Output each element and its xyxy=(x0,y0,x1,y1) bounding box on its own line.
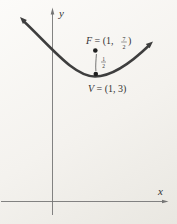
focus-label-mid: = (1, xyxy=(92,35,113,47)
vertex-label-rest: = (1, 3) xyxy=(94,83,126,95)
x-axis-label: x xyxy=(157,185,163,197)
focus-fraction-denominator: 2 xyxy=(123,44,126,50)
focus-point xyxy=(93,48,98,53)
focus-vertex-segment xyxy=(96,54,97,71)
y-axis-arrowhead xyxy=(51,8,55,15)
x-axis-arrowhead xyxy=(162,200,169,204)
parabola-figure-svg: y x 1 2 F = (1, 7 2 ) V = (1, 3) xyxy=(0,0,177,224)
focus-label-close-paren: ) xyxy=(128,35,131,47)
distance-fraction-numerator: 1 xyxy=(102,56,105,62)
vertex-point xyxy=(94,72,99,77)
parabola-curve xyxy=(24,22,150,77)
figure-parabola-diagram: y x 1 2 F = (1, 7 2 ) V = (1, 3) xyxy=(0,0,177,224)
vertex-label: V = (1, 3) xyxy=(88,83,126,95)
y-axis-label: y xyxy=(58,7,64,19)
distance-fraction-denominator: 2 xyxy=(102,63,105,69)
focus-fraction-numerator: 7 xyxy=(123,36,126,42)
focus-label: F = (1, xyxy=(85,35,114,47)
